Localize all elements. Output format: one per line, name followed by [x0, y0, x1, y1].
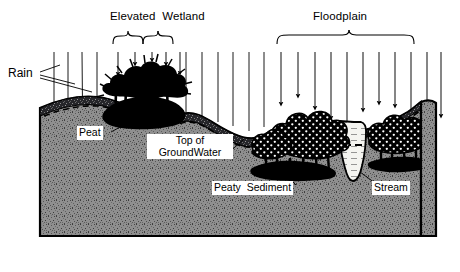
- subsurface-block: [40, 97, 421, 236]
- brace-elevated-wetland: [113, 31, 173, 44]
- label-stream: Stream: [372, 181, 410, 195]
- label-top-of-groundwater: Top ofGroundWater: [147, 134, 233, 159]
- wetland-cross-section-diagram: Elevated Wetland Floodplain Rain Peat To…: [0, 0, 460, 272]
- label-peat: Peat: [77, 126, 103, 140]
- floodplain-vegetation-left: [250, 112, 349, 182]
- label-rain: Rain: [8, 66, 33, 80]
- label-peaty-sediment: Peaty Sediment: [212, 181, 293, 195]
- right-bank: [421, 101, 436, 236]
- section-label-floodplain: Floodplain: [313, 10, 367, 22]
- brace-floodplain: [277, 30, 414, 44]
- label-top-of-groundwater-line1: Top of: [176, 134, 205, 146]
- elevated-wetland-vegetation: [96, 54, 192, 129]
- label-top-of-groundwater-line2: GroundWater: [159, 146, 222, 158]
- section-label-elevated-wetland: Elevated Wetland: [110, 10, 205, 22]
